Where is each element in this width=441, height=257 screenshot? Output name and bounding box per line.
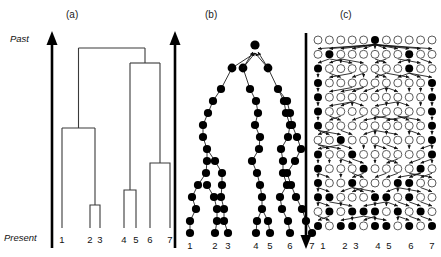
population-individual-node xyxy=(382,122,390,130)
population-individual-node xyxy=(337,122,345,130)
population-individual-node xyxy=(314,136,322,144)
population-individual-node xyxy=(405,122,413,130)
grid-edge xyxy=(375,173,386,177)
panel-c-tip-labels: 1 2 3 4 5 6 7 xyxy=(320,240,434,251)
tip-label: 2 xyxy=(212,240,217,251)
population-individual-node xyxy=(325,150,333,158)
population-individual-node xyxy=(337,193,345,201)
ancestral-individual-node xyxy=(405,50,413,58)
population-individual-node xyxy=(417,50,425,58)
population-individual-node xyxy=(325,122,333,130)
grid-edge xyxy=(341,159,352,163)
grid-edge xyxy=(398,102,409,106)
population-individual-node xyxy=(337,108,345,116)
population-individual-node xyxy=(337,79,345,87)
ancestral-individual-node xyxy=(371,208,379,216)
tip-label: 3 xyxy=(97,234,102,245)
population-individual-node xyxy=(417,36,425,44)
panel-c-time-arrow-icon xyxy=(301,33,312,249)
ancestral-individual-node xyxy=(325,50,333,58)
ancestral-individual-node xyxy=(428,150,436,158)
population-individual-node xyxy=(360,136,368,144)
ancestral-individual-node xyxy=(348,222,356,230)
population-individual-node xyxy=(348,93,356,101)
population-individual-node xyxy=(394,122,402,130)
population-individual-node xyxy=(325,165,333,173)
grid-edge xyxy=(352,73,363,77)
grid-edge xyxy=(409,202,420,206)
population-individual-node xyxy=(360,93,368,101)
population-individual-node xyxy=(382,136,390,144)
population-individual-node xyxy=(394,108,402,116)
population-individual-node xyxy=(337,208,345,216)
grid-edge xyxy=(409,130,420,134)
population-individual-node xyxy=(360,79,368,87)
population-individual-node xyxy=(325,136,333,144)
population-individual-node xyxy=(348,122,356,130)
grid-edge xyxy=(318,188,329,192)
population-individual-node xyxy=(337,93,345,101)
ancestral-individual-node xyxy=(405,179,413,187)
ancestral-individual-node xyxy=(325,208,333,216)
population-individual-node xyxy=(428,50,436,58)
ancestral-individual-node xyxy=(428,136,436,144)
ancestral-individual-node xyxy=(314,79,322,87)
population-individual-node xyxy=(382,108,390,116)
population-individual-node xyxy=(405,208,413,216)
population-individual-node xyxy=(371,150,379,158)
panel-a-label: (a) xyxy=(66,9,78,20)
population-individual-node xyxy=(405,108,413,116)
population-individual-node xyxy=(428,179,436,187)
ancestral-individual-node xyxy=(417,208,425,216)
grid-edge xyxy=(409,216,420,220)
grid-edge xyxy=(341,59,364,63)
tip-label: 4 xyxy=(375,240,380,251)
ancestral-individual-node xyxy=(314,179,322,187)
ancestral-individual-node xyxy=(428,79,436,87)
population-individual-node xyxy=(314,208,322,216)
population-individual-node xyxy=(382,208,390,216)
grid-edge xyxy=(386,73,409,77)
panel-b-edges xyxy=(190,53,312,233)
population-individual-node xyxy=(417,79,425,87)
grid-edge xyxy=(352,188,375,192)
ancestral-individual-node xyxy=(428,108,436,116)
population-individual-node xyxy=(348,193,356,201)
ancestral-individual-node xyxy=(337,222,345,230)
panel-a-tree xyxy=(62,48,170,228)
population-individual-node xyxy=(337,150,345,158)
population-individual-node xyxy=(337,65,345,73)
grid-edge xyxy=(386,173,397,177)
tip-label: 6 xyxy=(147,234,152,245)
grid-edge xyxy=(409,173,432,177)
panel-b-label: (b) xyxy=(205,9,217,20)
population-individual-node xyxy=(417,65,425,73)
ancestral-individual-node xyxy=(371,36,379,44)
population-individual-node xyxy=(348,36,356,44)
population-individual-node xyxy=(360,65,368,73)
population-individual-node xyxy=(428,65,436,73)
population-individual-node xyxy=(417,122,425,130)
ancestral-individual-node xyxy=(394,179,402,187)
panel-b-tip-labels: 1 2 3 4 5 6 7 xyxy=(187,240,314,251)
ancestral-individual-node xyxy=(348,150,356,158)
population-individual-node xyxy=(325,79,333,87)
population-individual-node xyxy=(382,165,390,173)
tip-label: 2 xyxy=(342,240,347,251)
population-individual-node xyxy=(417,93,425,101)
tip-label: 3 xyxy=(225,240,230,251)
population-individual-node xyxy=(371,108,379,116)
population-individual-node xyxy=(417,179,425,187)
grid-edge xyxy=(386,88,397,92)
population-individual-node xyxy=(382,65,390,73)
ancestral-individual-node xyxy=(371,222,379,230)
population-individual-node xyxy=(348,136,356,144)
grid-edge xyxy=(386,145,397,149)
population-individual-node xyxy=(360,50,368,58)
grid-edge xyxy=(398,116,421,120)
ancestral-individual-node xyxy=(371,193,379,201)
population-individual-node xyxy=(405,136,413,144)
ancestral-individual-node xyxy=(314,108,322,116)
population-individual-node xyxy=(348,50,356,58)
population-individual-node xyxy=(405,36,413,44)
